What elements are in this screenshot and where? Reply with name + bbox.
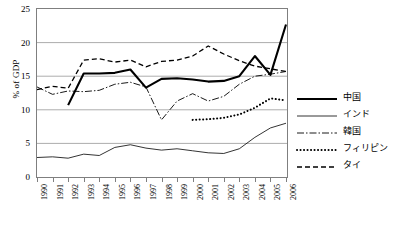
y-tick-label-10: 10 — [14, 105, 30, 114]
legend-key-3 — [296, 142, 338, 154]
x-tick-mark-1996 — [130, 178, 131, 182]
x-tick-label-1994: 1994 — [103, 184, 111, 200]
x-tick-mark-2003 — [239, 178, 240, 182]
x-tick-mark-1994 — [99, 178, 100, 182]
x-tick-mark-2000 — [193, 178, 194, 182]
legend-label-3: フィリピン — [343, 141, 388, 154]
series-line-1 — [37, 123, 286, 158]
legend-item-0: 中国 — [296, 88, 396, 105]
x-tick-label-1996: 1996 — [134, 184, 142, 200]
chart-figure: % of GDP 0510152025 19901991199219931994… — [0, 0, 396, 237]
plot-svg — [37, 9, 287, 177]
x-tick-label-2002: 2002 — [228, 184, 236, 200]
x-tick-mark-2004 — [255, 178, 256, 182]
y-tick-label-15: 15 — [14, 72, 30, 81]
legend-item-1: インド — [296, 105, 396, 122]
legend-key-2 — [296, 125, 338, 137]
legend-label-2: 韓国 — [343, 124, 361, 137]
x-tick-mark-1995 — [115, 178, 116, 182]
plot-area — [36, 8, 288, 178]
x-tick-label-2000: 2000 — [197, 184, 205, 200]
x-tick-mark-1992 — [68, 178, 69, 182]
x-tick-mark-2006 — [286, 178, 287, 182]
x-tick-mark-1999 — [177, 178, 178, 182]
x-tick-label-1999: 1999 — [181, 184, 189, 200]
x-tick-mark-1991 — [53, 178, 54, 182]
x-axis-tick-labels: 1990199119921993199419951996199719981999… — [36, 178, 288, 237]
legend-item-3: フィリピン — [296, 139, 396, 156]
legend-key-4 — [296, 159, 338, 171]
legend-key-0 — [296, 91, 338, 103]
legend-item-2: 韓国 — [296, 122, 396, 139]
legend-item-4: タイ — [296, 156, 396, 173]
series-line-4 — [37, 46, 286, 90]
x-tick-label-2004: 2004 — [259, 184, 267, 200]
legend-label-4: タイ — [343, 158, 361, 171]
y-tick-label-20: 20 — [14, 38, 30, 47]
y-tick-label-5: 5 — [14, 139, 30, 148]
legend-key-1 — [296, 108, 338, 120]
legend-label-1: インド — [343, 107, 370, 120]
x-tick-label-2001: 2001 — [212, 184, 220, 200]
x-tick-mark-2005 — [270, 178, 271, 182]
x-tick-label-1990: 1990 — [41, 184, 49, 200]
x-tick-mark-1990 — [37, 178, 38, 182]
x-tick-label-1998: 1998 — [166, 184, 174, 200]
x-tick-label-1997: 1997 — [150, 184, 158, 200]
x-tick-mark-1993 — [84, 178, 85, 182]
x-tick-label-2003: 2003 — [243, 184, 251, 200]
legend-label-0: 中国 — [343, 90, 361, 103]
x-tick-mark-1998 — [162, 178, 163, 182]
y-axis-tick-labels: 0510152025 — [14, 0, 30, 237]
series-line-3 — [193, 98, 286, 120]
x-tick-mark-2002 — [224, 178, 225, 182]
x-tick-label-1991: 1991 — [57, 184, 65, 200]
chart-legend: 中国インド韓国フィリピンタイ — [296, 88, 396, 173]
x-tick-mark-1997 — [146, 178, 147, 182]
x-tick-label-1992: 1992 — [72, 184, 80, 200]
x-tick-label-1995: 1995 — [119, 184, 127, 200]
y-tick-label-25: 25 — [14, 5, 30, 14]
y-tick-label-0: 0 — [14, 173, 30, 182]
x-tick-label-2005: 2005 — [274, 184, 282, 200]
x-tick-label-2006: 2006 — [290, 184, 298, 200]
x-tick-label-1993: 1993 — [88, 184, 96, 200]
series-line-0 — [68, 24, 286, 105]
x-tick-mark-2001 — [208, 178, 209, 182]
